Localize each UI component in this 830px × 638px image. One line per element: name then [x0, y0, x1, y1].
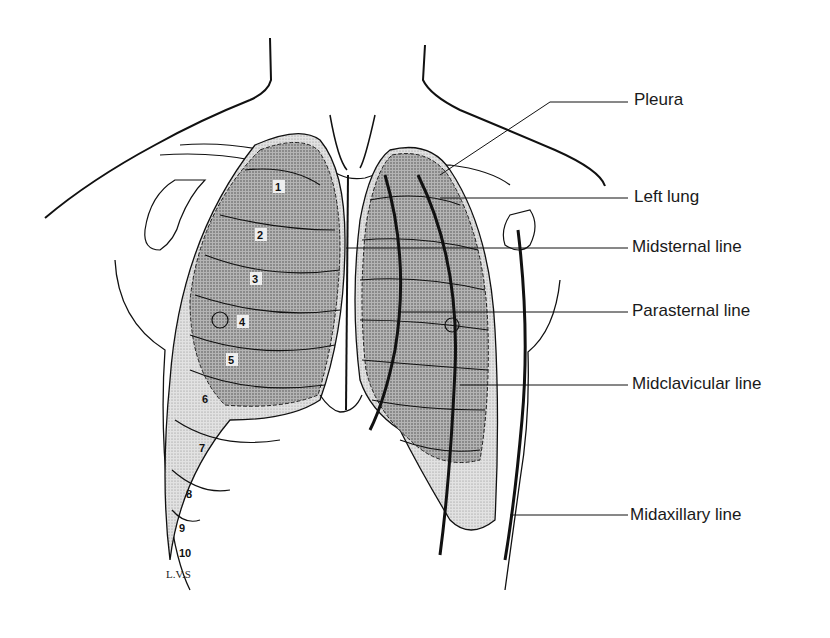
label-midaxillary-line: Midaxillary line — [630, 506, 741, 523]
svg-text:8: 8 — [186, 488, 192, 500]
label-pleura: Pleura — [634, 91, 683, 108]
label-midclavicular-line: Midclavicular line — [632, 375, 761, 392]
svg-text:6: 6 — [202, 393, 208, 405]
svg-text:5: 5 — [228, 354, 234, 366]
svg-text:2: 2 — [257, 229, 263, 241]
svg-text:3: 3 — [252, 273, 258, 285]
label-midsternal-line: Midsternal line — [632, 238, 742, 255]
label-parasternal-line: Parasternal line — [632, 302, 750, 319]
xiphoid-outline — [320, 395, 362, 412]
midsternal-vertical-line — [346, 175, 348, 410]
svg-text:7: 7 — [199, 442, 205, 454]
midaxillary-line-curve — [505, 230, 525, 560]
svg-text:10: 10 — [179, 547, 191, 559]
svg-text:1: 1 — [275, 181, 281, 193]
svg-text:9: 9 — [179, 522, 185, 534]
artist-signature: L.V.S — [166, 568, 191, 580]
svg-text:4: 4 — [239, 316, 246, 328]
left-lung — [355, 148, 498, 531]
label-left-lung: Left lung — [634, 188, 699, 205]
